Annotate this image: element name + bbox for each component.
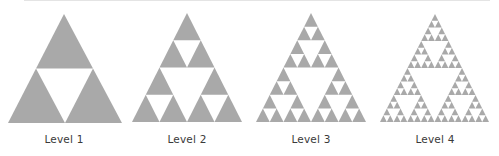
sierpinski-level-2 bbox=[132, 13, 242, 122]
sierpinski-level-4 bbox=[380, 14, 489, 122]
sierpinski-level-1 bbox=[8, 14, 122, 123]
label-level-1: Level 1 bbox=[19, 133, 109, 145]
sierpinski-level-3 bbox=[256, 13, 366, 122]
label-level-2: Level 2 bbox=[142, 133, 232, 145]
label-level-3: Level 3 bbox=[266, 133, 356, 145]
label-level-4: Level 4 bbox=[390, 133, 480, 145]
